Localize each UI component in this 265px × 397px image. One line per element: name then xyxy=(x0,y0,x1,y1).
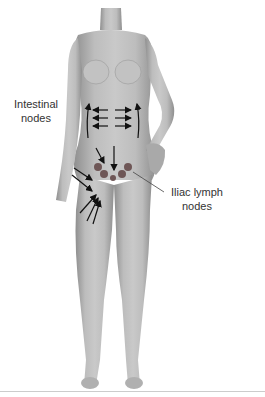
baseline-divider xyxy=(0,391,265,392)
iliac-nodes-label: Iliac lymph nodes xyxy=(162,185,232,213)
intestinal-nodes-label: Intestinal nodes xyxy=(6,97,66,125)
iliac-label-line1: Iliac lymph xyxy=(162,185,232,199)
intestinal-label-line2: nodes xyxy=(6,111,66,125)
anatomy-figure: Intestinal nodes Iliac lymph nodes xyxy=(0,0,265,397)
iliac-label-line2: nodes xyxy=(162,199,232,213)
intestinal-label-line1: Intestinal xyxy=(6,97,66,111)
